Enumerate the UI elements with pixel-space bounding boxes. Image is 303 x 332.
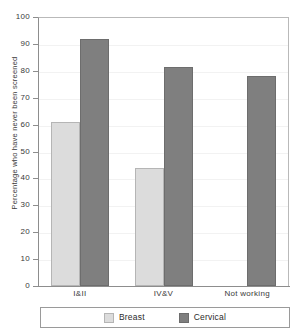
y-axis-tick: [33, 17, 38, 18]
y-axis-tick-label: 10: [4, 255, 30, 263]
cervical-swatch-icon: [179, 313, 189, 323]
bar-cervical-0: [80, 39, 109, 286]
bar-chart-figure: Percentage who have never been screened …: [0, 0, 303, 332]
y-axis-tick: [33, 44, 38, 45]
x-axis-line: [38, 286, 290, 287]
y-axis-tick: [33, 71, 38, 72]
y-axis-tick-label: 20: [4, 228, 30, 236]
y-axis-title: Percentage who have never been screened: [10, 60, 19, 210]
bar-cervical-2: [247, 76, 276, 286]
legend-label-breast: Breast: [119, 313, 145, 322]
x-axis-label-1: IV&V: [122, 289, 206, 298]
legend-item-breast[interactable]: Breast: [104, 313, 145, 323]
breast-swatch-icon: [104, 313, 114, 323]
y-axis-tick: [33, 259, 38, 260]
y-axis-tick-label: 70: [4, 94, 30, 102]
y-axis-tick: [33, 286, 38, 287]
y-axis-tick-label: 80: [4, 67, 30, 75]
y-axis-tick: [33, 232, 38, 233]
y-axis-tick-label: 90: [4, 40, 30, 48]
y-axis-tick-label: 60: [4, 121, 30, 129]
y-axis-tick-label: 50: [4, 148, 30, 156]
x-axis-label-2: Not working: [205, 289, 289, 298]
bar-cervical-1: [164, 67, 193, 286]
clipped-title-strip: [0, 0, 303, 9]
y-axis-tick: [33, 152, 38, 153]
legend-label-cervical: Cervical: [194, 313, 226, 322]
gridline: [39, 45, 288, 46]
y-axis-tick: [33, 98, 38, 99]
chart-legend: Breast Cervical: [40, 307, 290, 328]
y-axis-tick: [33, 178, 38, 179]
y-axis-tick-label: 0: [4, 282, 30, 290]
y-axis-tick: [33, 125, 38, 126]
x-axis-label-0: I&II: [38, 289, 122, 298]
bar-breast-1: [135, 168, 164, 286]
y-axis-tick-label: 100: [4, 13, 30, 21]
y-axis-tick: [33, 205, 38, 206]
bar-breast-0: [51, 122, 80, 286]
y-axis-tick-label: 30: [4, 201, 30, 209]
y-axis-tick-label: 40: [4, 174, 30, 182]
legend-item-cervical[interactable]: Cervical: [179, 313, 226, 323]
